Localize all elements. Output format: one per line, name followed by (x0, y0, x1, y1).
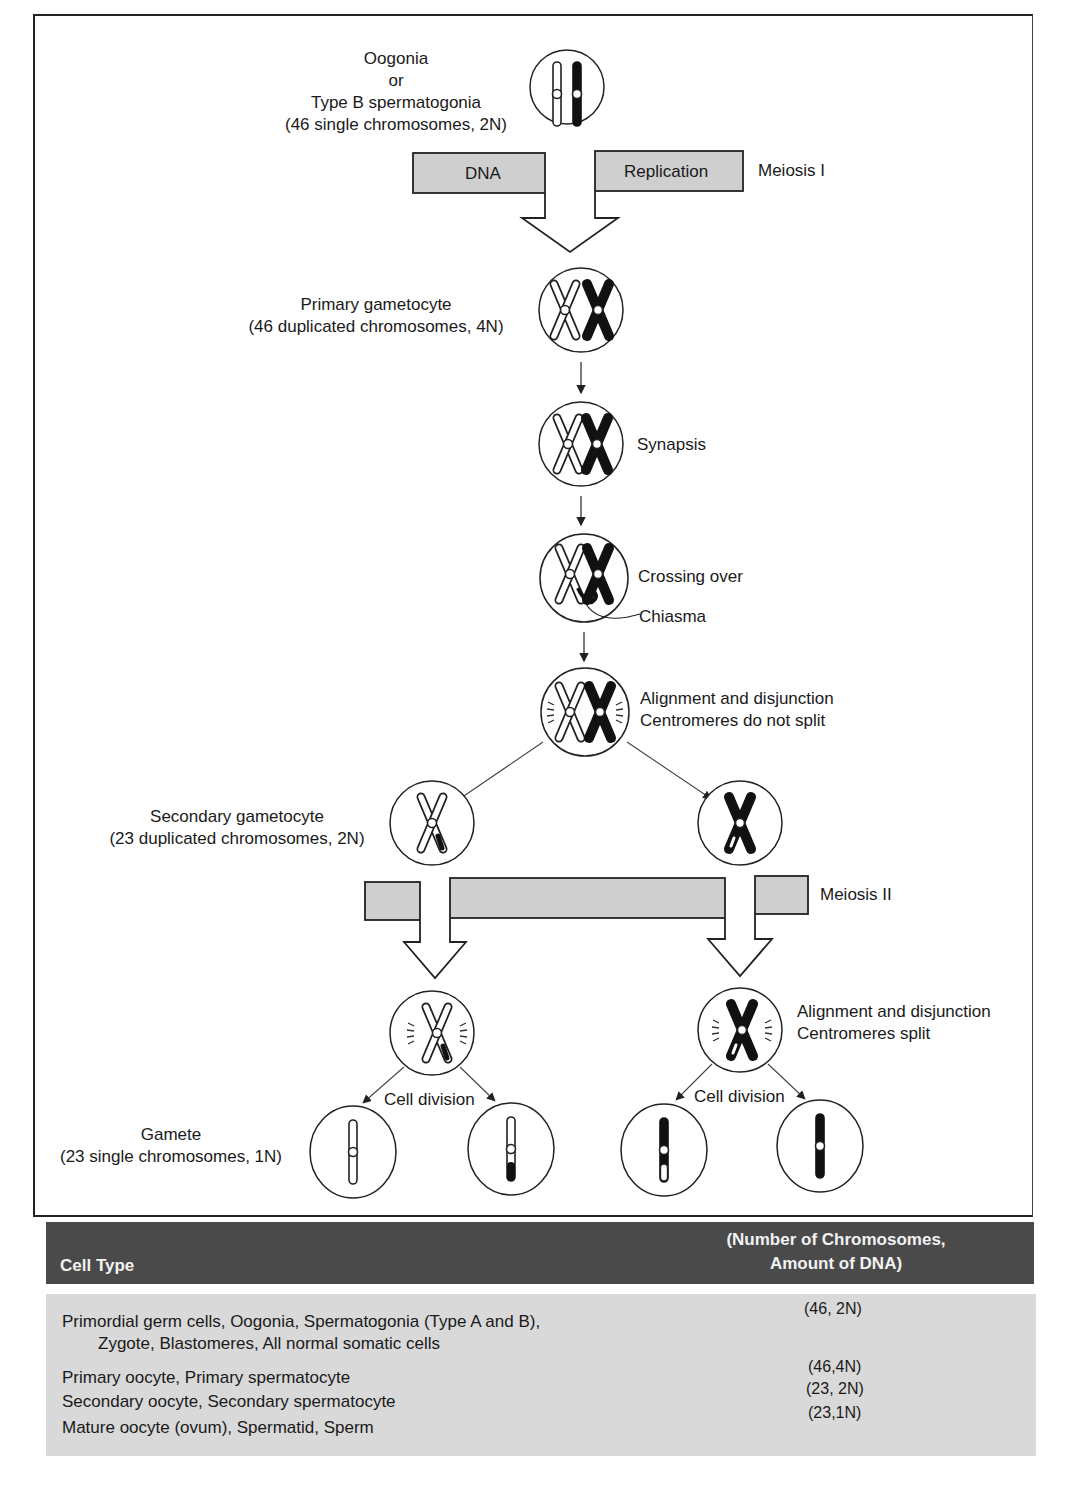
crossing-over-label: Crossing over (638, 566, 743, 588)
gamete-cell-1 (310, 1106, 396, 1198)
row-2-value: (46,4N) (808, 1358, 861, 1376)
row-1-value: (46, 2N) (804, 1300, 862, 1318)
chiasma-label: Chiasma (639, 606, 706, 628)
meiosis-i-label: Meiosis I (758, 160, 825, 182)
gamete-label: Gamete (23 single chromosomes, 1N) (46, 1124, 296, 1168)
gamete-cell-3 (621, 1104, 707, 1196)
alignment-1-line2: Centromeres do not split (640, 710, 834, 732)
alignment-2-line1: Alignment and disjunction (797, 1001, 991, 1023)
header-cell-type: Cell Type (60, 1256, 134, 1276)
table-row: Primary oocyte, Primary spermatocyte (62, 1368, 350, 1388)
table-header: Cell Type (Number of Chromosomes, Amount… (46, 1222, 1034, 1284)
secondary-gametocyte-label: Secondary gametocyte (23 duplicated chro… (92, 806, 382, 850)
row-1-cell-type-line2: Zygote, Blastomeres, All normal somatic … (62, 1334, 540, 1354)
table-row: Mature oocyte (ovum), Spermatid, Sperm (62, 1418, 374, 1438)
secondary-gametocyte-right (698, 781, 782, 865)
alignment-2-line2: Centromeres split (797, 1023, 991, 1045)
header-dna-line2: Amount of DNA) (706, 1252, 966, 1276)
gamete-label-line1: Gamete (46, 1124, 296, 1146)
oogonia-cell (530, 50, 604, 126)
replication-label: Replication (624, 161, 708, 183)
cell-division-right-label: Cell division (694, 1086, 785, 1108)
synapsis-cell (539, 402, 623, 486)
secondary-label-line2: (23 duplicated chromosomes, 2N) (92, 828, 382, 850)
oogonia-label-line2: or (262, 70, 530, 92)
oogonia-label-line3: Type B spermatogonia (262, 92, 530, 114)
alignment-2-label: Alignment and disjunction Centromeres sp… (797, 1001, 991, 1045)
row-4-value: (23,1N) (808, 1404, 861, 1422)
alignment-1-label: Alignment and disjunction Centromeres do… (640, 688, 834, 732)
crossing-over-cell (540, 534, 640, 622)
table-body: Primordial germ cells, Oogonia, Spermato… (46, 1294, 1036, 1456)
alignment-cell-1 (541, 668, 629, 756)
secondary-label-line1: Secondary gametocyte (92, 806, 382, 828)
gamete-cell-4 (777, 1100, 863, 1192)
header-dna: (Number of Chromosomes, Amount of DNA) (706, 1228, 966, 1276)
synapsis-label: Synapsis (637, 434, 706, 456)
meiosis-ii-bar (365, 876, 808, 978)
primary-gametocyte-label: Primary gametocyte (46 duplicated chromo… (228, 294, 524, 338)
oogonia-label-line1: Oogonia (262, 48, 530, 70)
primary-gametocyte-cell (539, 268, 623, 352)
oogonia-label: Oogonia or Type B spermatogonia (46 sing… (262, 48, 530, 136)
alignment-cell-2-left (390, 991, 474, 1075)
dna-label: DNA (465, 163, 501, 185)
gamete-cell-2 (468, 1103, 554, 1195)
alignment-cell-2-right (698, 988, 782, 1072)
row-3-value: (23, 2N) (806, 1380, 864, 1398)
row-1-cell-type-line1: Primordial germ cells, Oogonia, Spermato… (62, 1312, 540, 1332)
primary-label-line1: Primary gametocyte (228, 294, 524, 316)
oogonia-label-line4: (46 single chromosomes, 2N) (262, 114, 530, 136)
meiosis-ii-label: Meiosis II (820, 884, 892, 906)
secondary-gametocyte-left (390, 781, 474, 865)
cell-division-left-label: Cell division (384, 1089, 475, 1111)
gamete-label-line2: (23 single chromosomes, 1N) (46, 1146, 296, 1168)
table-row: Secondary oocyte, Secondary spermatocyte (62, 1392, 396, 1412)
alignment-1-line1: Alignment and disjunction (640, 688, 834, 710)
header-dna-line1: (Number of Chromosomes, (706, 1228, 966, 1252)
primary-label-line2: (46 duplicated chromosomes, 4N) (228, 316, 524, 338)
table-row: Primordial germ cells, Oogonia, Spermato… (62, 1312, 540, 1354)
